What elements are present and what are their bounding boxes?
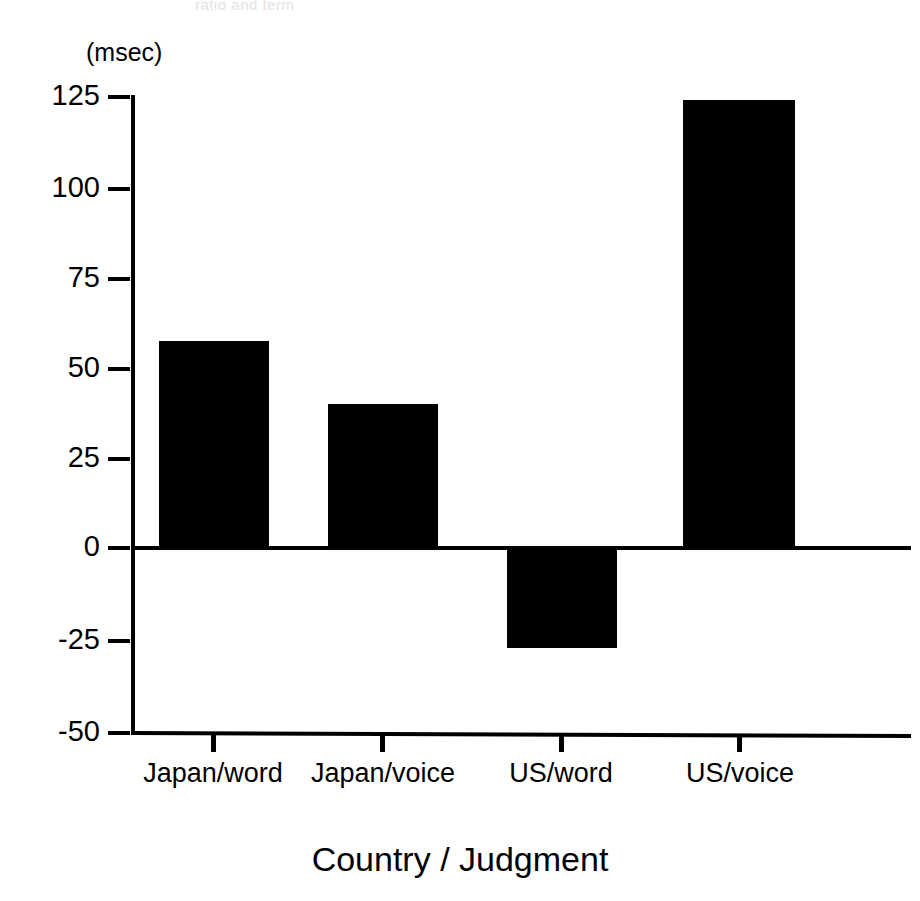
y-axis-unit-label: (msec) <box>86 40 162 65</box>
y-tick-label: 125 <box>52 81 100 110</box>
bar-chart-figure: ratio and term (msec) 125 100 75 50 25 0… <box>0 0 920 901</box>
bar-japan-voice <box>328 404 438 548</box>
y-tick-mark <box>108 187 130 191</box>
x-axis-title: Country / Judgment <box>0 842 920 876</box>
y-tick-mark <box>108 277 130 281</box>
y-tick-label: -25 <box>58 625 100 654</box>
y-tick-label: 75 <box>68 263 100 292</box>
ghost-artifact-text: ratio and term <box>195 0 295 13</box>
x-tick-label-japan-voice: Japan/voice <box>311 760 455 787</box>
y-tick-label: 0 <box>84 532 100 561</box>
y-tick-label: 100 <box>52 173 100 202</box>
x-axis-line <box>131 731 911 738</box>
y-tick-label: 50 <box>68 353 100 382</box>
x-tick-label-us-voice: US/voice <box>686 760 794 787</box>
x-tick-label-japan-word: Japan/word <box>143 760 283 787</box>
y-axis-line <box>131 95 135 735</box>
y-tick-label: 25 <box>68 443 100 472</box>
bar-us-voice <box>683 100 795 548</box>
y-tick-mark <box>108 731 130 735</box>
y-tick-mark <box>108 95 130 99</box>
y-tick-mark <box>108 546 130 550</box>
bar-us-word <box>507 548 617 648</box>
x-tick-mark <box>380 735 385 752</box>
y-tick-mark <box>108 639 130 643</box>
x-tick-mark <box>211 735 216 752</box>
x-tick-mark <box>559 735 564 752</box>
x-tick-label-us-word: US/word <box>509 760 613 787</box>
y-tick-mark <box>108 367 130 371</box>
y-tick-label: -50 <box>58 717 100 746</box>
x-tick-mark <box>737 735 742 752</box>
bar-japan-word <box>159 341 269 548</box>
y-tick-mark <box>108 457 130 461</box>
